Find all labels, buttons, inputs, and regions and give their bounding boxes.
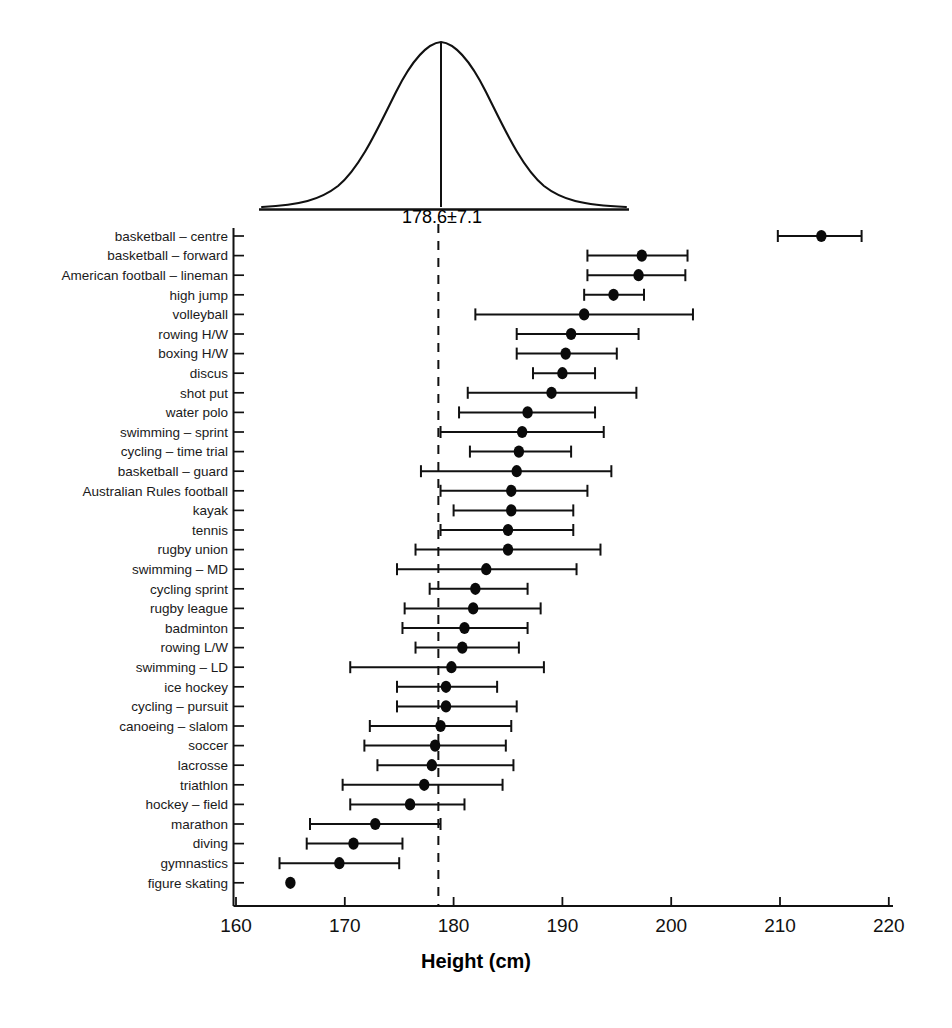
data-point-marker	[579, 308, 589, 320]
data-row	[454, 504, 574, 516]
category-label: diving	[193, 836, 228, 851]
data-row	[459, 406, 595, 418]
x-axis-tick-label: 220	[873, 915, 905, 936]
category-label: discus	[190, 366, 229, 381]
category-label: American football – lineman	[61, 268, 228, 283]
category-label: rugby union	[157, 542, 228, 557]
data-point-marker	[405, 798, 415, 810]
category-label: Australian Rules football	[82, 484, 228, 499]
data-row	[517, 328, 639, 340]
data-point-marker	[637, 250, 647, 262]
category-label: cycling sprint	[150, 582, 228, 597]
category-label: badminton	[165, 621, 228, 636]
data-row	[343, 779, 503, 791]
data-point-marker	[503, 544, 513, 556]
data-point-marker	[441, 681, 451, 693]
data-point-marker	[560, 348, 570, 360]
category-label: swimming – MD	[132, 562, 228, 577]
category-label: shot put	[180, 386, 228, 401]
data-point-marker	[435, 720, 445, 732]
data-point-marker	[348, 838, 358, 850]
data-row	[350, 661, 544, 673]
category-label: canoeing – slalom	[119, 719, 228, 734]
x-axis-tick-label: 180	[438, 915, 470, 936]
x-axis-tick-label: 190	[547, 915, 579, 936]
x-axis-title-text: Height (cm)	[421, 950, 531, 972]
data-row	[397, 700, 517, 712]
data-point-marker	[441, 700, 451, 712]
data-point-marker	[503, 524, 513, 536]
chart-figure: 178.6±7.1 160170180190200210220basketbal…	[0, 0, 952, 1028]
data-point-marker	[370, 818, 380, 830]
data-row	[350, 798, 464, 810]
category-label: rugby league	[150, 601, 228, 616]
data-row	[475, 308, 693, 320]
data-row	[307, 838, 403, 850]
data-point-marker	[517, 426, 527, 438]
data-row	[416, 642, 519, 654]
data-row	[364, 740, 505, 752]
category-label: volleyball	[172, 307, 228, 322]
category-label: rowing H/W	[158, 327, 228, 342]
data-point-marker	[566, 328, 576, 340]
data-row	[587, 269, 685, 281]
category-label: triathlon	[180, 778, 228, 793]
x-axis-tick-label: 160	[220, 915, 252, 936]
data-row	[370, 720, 511, 732]
category-label: rowing L/W	[160, 640, 228, 655]
category-label: high jump	[169, 288, 228, 303]
category-label: gymnastics	[160, 856, 228, 871]
x-axis-tick-label: 170	[329, 915, 361, 936]
category-label: marathon	[171, 817, 228, 832]
data-row	[441, 485, 588, 497]
x-axis-title: Height (cm)	[0, 950, 952, 973]
category-label: water polo	[165, 405, 228, 420]
data-point-marker	[608, 289, 618, 301]
data-point-marker	[334, 857, 344, 869]
data-point-marker	[285, 877, 295, 889]
category-label: basketball – guard	[118, 464, 228, 479]
data-point-marker	[633, 269, 643, 281]
forest-plot: 160170180190200210220basketball – centre…	[0, 0, 952, 1028]
data-point-marker	[459, 622, 469, 634]
data-point-marker	[419, 779, 429, 791]
data-point-marker	[470, 583, 480, 595]
data-row	[416, 544, 601, 556]
data-point-marker	[427, 759, 437, 771]
data-point-marker	[446, 661, 456, 673]
data-row	[405, 602, 541, 614]
category-label: figure skating	[148, 876, 228, 891]
data-row	[587, 250, 687, 262]
data-point-marker	[457, 642, 467, 654]
data-point-marker	[522, 406, 532, 418]
data-row	[310, 818, 441, 830]
data-point-marker	[430, 740, 440, 752]
x-axis-tick-label: 200	[655, 915, 687, 936]
data-point-marker	[506, 504, 516, 516]
data-row	[280, 857, 400, 869]
data-row	[533, 367, 595, 379]
data-row	[778, 230, 862, 242]
data-row	[377, 759, 513, 771]
data-row	[397, 563, 577, 575]
data-row	[285, 877, 295, 889]
data-point-marker	[557, 367, 567, 379]
category-label: lacrosse	[178, 758, 228, 773]
category-label: soccer	[188, 738, 228, 753]
category-label: ice hockey	[164, 680, 228, 695]
data-row	[430, 583, 528, 595]
data-point-marker	[512, 465, 522, 477]
category-label: cycling – pursuit	[131, 699, 228, 714]
data-row	[441, 524, 574, 536]
category-label: kayak	[193, 503, 229, 518]
category-label: swimming – LD	[136, 660, 229, 675]
data-row	[517, 348, 617, 360]
data-row	[584, 289, 644, 301]
category-label: swimming – sprint	[120, 425, 228, 440]
category-label: tennis	[192, 523, 228, 538]
data-point-marker	[546, 387, 556, 399]
data-row	[421, 465, 611, 477]
category-label: basketball – forward	[107, 248, 228, 263]
data-point-marker	[816, 230, 826, 242]
category-label: cycling – time trial	[121, 444, 228, 459]
